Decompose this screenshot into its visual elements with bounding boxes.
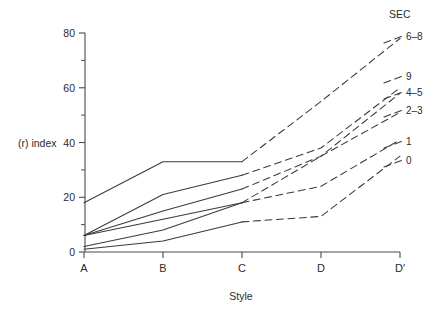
x-tick-label-d: D xyxy=(317,262,325,274)
series-line-solid-2-3 xyxy=(84,203,242,236)
series-line-dashed-2-3 xyxy=(242,112,400,202)
legend-leader-6-8 xyxy=(384,36,403,43)
series-line-dashed-9 xyxy=(242,88,400,176)
line-chart-svg: 0 20 40 60 80 (r) index A B C D D′ Style… xyxy=(0,0,433,316)
chart-container: 0 20 40 60 80 (r) index A B C D D′ Style… xyxy=(0,0,433,316)
legend-leader-9 xyxy=(384,76,403,83)
y-tick-label-40: 40 xyxy=(63,137,75,149)
legend-layer: 6–894–52–310 xyxy=(384,31,423,167)
legend-item-0: 0 xyxy=(406,155,412,166)
y-tick-label-20: 20 xyxy=(63,191,75,203)
x-tick-label-dprime: D′ xyxy=(395,262,405,274)
y-tick-label-80: 80 xyxy=(63,27,75,39)
series-line-dashed-4-5 xyxy=(242,93,400,189)
series-line-solid-6-8 xyxy=(84,162,242,203)
x-axis-title: Style xyxy=(229,290,253,302)
legend-item-9: 9 xyxy=(406,71,412,82)
legend-title: SEC xyxy=(389,8,411,20)
legend-leader-1 xyxy=(384,141,403,148)
y-tick-label-0: 0 xyxy=(69,246,75,258)
y-tick-label-60: 60 xyxy=(63,82,75,94)
legend-leader-0 xyxy=(384,160,403,167)
series-line-dashed-1 xyxy=(242,140,400,203)
legend-item-4-5: 4–5 xyxy=(406,87,423,98)
y-axis-ticks xyxy=(79,33,85,252)
series-line-dashed-6-8 xyxy=(242,38,400,161)
x-axis-ticks xyxy=(84,252,400,258)
series-line-solid-0 xyxy=(84,222,242,249)
legend-item-6-8: 6–8 xyxy=(406,31,423,42)
legend-item-1: 1 xyxy=(406,136,412,147)
x-tick-label-b: B xyxy=(159,262,166,274)
series-line-solid-4-5 xyxy=(84,189,242,236)
series-layer xyxy=(84,38,400,249)
legend-item-2-3: 2–3 xyxy=(406,105,423,116)
y-axis-title: (r) index xyxy=(18,137,57,149)
series-line-solid-9 xyxy=(84,175,242,235)
x-tick-label-c: C xyxy=(238,262,246,274)
x-tick-label-a: A xyxy=(80,262,88,274)
series-line-solid-1 xyxy=(84,203,242,247)
